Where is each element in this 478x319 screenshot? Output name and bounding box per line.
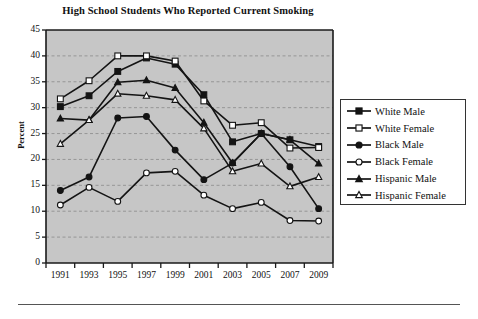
legend-label: White Female <box>375 123 434 134</box>
marker-filled-square <box>115 69 121 75</box>
legend-label: White Male <box>375 106 425 117</box>
marker-open-circle <box>86 185 92 191</box>
legend: White MaleWhite FemaleBlack MaleBlack Fe… <box>340 99 466 205</box>
marker-filled-circle <box>86 174 92 180</box>
chart-figure: High School Students Who Reported Curren… <box>0 0 478 319</box>
marker-open-square <box>144 53 150 59</box>
marker-open-square <box>316 145 322 151</box>
legend-item-black-male[interactable]: Black Male <box>341 137 465 154</box>
marker-open-square <box>86 78 92 84</box>
legend-marker-open-square-icon <box>346 121 372 135</box>
marker-open-square <box>230 122 236 128</box>
bottom-divider <box>18 304 460 305</box>
marker-open-circle <box>258 200 264 206</box>
legend-item-white-male[interactable]: White Male <box>341 103 465 120</box>
legend-label: Hispanic Female <box>375 190 446 201</box>
legend-item-hispanic-female[interactable]: Hispanic Female <box>341 187 465 204</box>
marker-filled-circle <box>172 147 178 153</box>
marker-filled-circle <box>57 188 63 194</box>
marker-open-square <box>201 98 207 104</box>
legend-marker-filled-circle-icon <box>346 138 372 152</box>
marker-open-square <box>172 58 178 64</box>
marker-open-circle <box>115 198 121 204</box>
marker-open-square <box>258 120 264 126</box>
marker-filled-circle <box>356 142 362 148</box>
marker-filled-circle <box>287 164 293 170</box>
marker-open-circle <box>287 218 293 224</box>
marker-filled-circle <box>115 115 121 121</box>
marker-open-circle <box>57 202 63 208</box>
marker-open-circle <box>356 159 362 165</box>
marker-open-circle <box>316 218 322 224</box>
legend-label: Hispanic Male <box>375 173 437 184</box>
marker-open-circle <box>144 170 150 176</box>
marker-filled-circle <box>201 177 207 183</box>
legend-label: Black Female <box>375 156 433 167</box>
marker-filled-square <box>230 139 236 145</box>
legend-item-hispanic-male[interactable]: Hispanic Male <box>341 170 465 187</box>
marker-open-circle <box>230 206 236 212</box>
legend-label: Black Male <box>375 139 424 150</box>
legend-marker-filled-square-icon <box>346 104 372 118</box>
legend-marker-filled-triangle-icon <box>346 172 372 186</box>
legend-item-black-female[interactable]: Black Female <box>341 153 465 170</box>
legend-marker-open-triangle-icon <box>346 188 372 202</box>
marker-open-square <box>287 145 293 151</box>
marker-open-square <box>57 96 63 102</box>
marker-open-square <box>356 125 362 131</box>
marker-filled-square <box>356 108 362 114</box>
marker-open-circle <box>172 168 178 174</box>
marker-filled-circle <box>144 114 150 120</box>
legend-item-white-female[interactable]: White Female <box>341 120 465 137</box>
marker-open-square <box>115 53 121 59</box>
marker-filled-square <box>57 104 63 110</box>
marker-filled-square <box>86 93 92 99</box>
marker-filled-circle <box>316 206 322 212</box>
legend-marker-open-circle-icon <box>346 155 372 169</box>
marker-open-circle <box>201 192 207 198</box>
